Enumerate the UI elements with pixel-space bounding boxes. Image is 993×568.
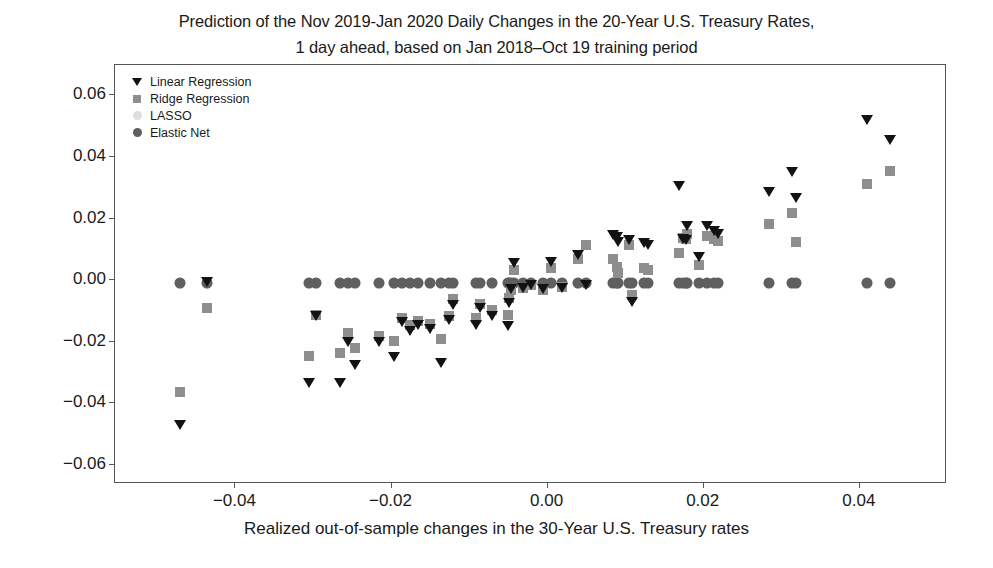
data-point <box>174 278 185 289</box>
data-point <box>335 348 345 358</box>
legend-marker-icon <box>129 111 145 120</box>
data-point <box>342 337 354 347</box>
data-point <box>580 280 592 290</box>
data-point <box>373 278 384 289</box>
page-title: Prediction of the Nov 2019-Jan 2020 Dail… <box>0 8 993 60</box>
data-point <box>447 300 459 310</box>
data-point <box>503 298 515 308</box>
data-point <box>388 352 400 362</box>
legend-label: Ridge Regression <box>150 92 249 106</box>
data-point <box>424 278 435 289</box>
data-point <box>443 315 455 325</box>
legend-label: Linear Regression <box>150 75 251 89</box>
x-tick-label: 0.00 <box>530 491 563 511</box>
legend-item[interactable]: LASSO <box>129 107 251 124</box>
data-point <box>786 167 798 177</box>
data-point <box>763 187 775 197</box>
data-point <box>525 280 537 290</box>
data-point <box>412 320 424 330</box>
data-point <box>350 278 361 289</box>
legend-label: LASSO <box>150 109 192 123</box>
data-point <box>334 378 346 388</box>
data-point <box>201 277 213 287</box>
data-point <box>791 278 802 289</box>
x-tick-mark <box>703 482 704 488</box>
x-tick-label: −0.02 <box>369 491 412 511</box>
data-point <box>623 235 635 245</box>
data-point <box>581 240 591 250</box>
data-point <box>791 237 801 247</box>
data-point <box>502 321 514 331</box>
y-tick-label: −0.02 <box>63 331 106 351</box>
y-tick-label: 0.04 <box>73 146 106 166</box>
data-point <box>486 311 498 321</box>
y-tick-label: 0.00 <box>73 269 106 289</box>
data-point <box>505 284 517 294</box>
data-point <box>674 248 684 258</box>
data-point <box>475 278 486 289</box>
data-point <box>572 250 584 260</box>
y-tick-label: 0.02 <box>73 208 106 228</box>
data-point <box>349 360 361 370</box>
data-point <box>790 193 802 203</box>
data-point <box>682 278 693 289</box>
x-tick-label: 0.04 <box>842 491 875 511</box>
legend-marker-icon <box>129 95 145 103</box>
legend-item[interactable]: Elastic Net <box>129 124 251 141</box>
chart-legend: Linear RegressionRidge RegressionLASSOEl… <box>125 70 258 145</box>
x-tick-mark <box>547 482 548 488</box>
data-point <box>436 334 446 344</box>
y-tick-label: 0.06 <box>73 84 106 104</box>
y-tick-label: −0.06 <box>63 454 106 474</box>
data-point <box>486 278 497 289</box>
data-point <box>627 278 638 289</box>
data-point <box>642 240 654 250</box>
data-point <box>861 115 873 125</box>
data-point <box>424 324 436 334</box>
data-point <box>389 336 399 346</box>
data-point <box>174 420 186 430</box>
data-point <box>764 278 775 289</box>
data-point <box>885 278 896 289</box>
data-point <box>373 337 385 347</box>
data-point <box>474 303 486 313</box>
legend-marker-icon <box>129 78 145 86</box>
legend-label: Elastic Net <box>150 126 210 140</box>
x-tick-label: 0.02 <box>686 491 719 511</box>
data-point <box>862 179 872 189</box>
plot-area: −0.06−0.04−0.020.000.020.040.06 −0.04−0.… <box>114 64 946 483</box>
data-point <box>311 278 322 289</box>
data-point <box>885 166 895 176</box>
data-point <box>712 229 724 239</box>
data-point <box>673 181 685 191</box>
data-point <box>693 252 705 262</box>
data-point <box>680 235 692 245</box>
data-point <box>303 378 315 388</box>
data-point <box>435 358 447 368</box>
legend-marker-icon <box>129 128 145 137</box>
data-point <box>643 278 654 289</box>
data-point <box>175 387 185 397</box>
x-tick-mark <box>234 482 235 488</box>
data-point <box>556 283 568 293</box>
x-tick-mark <box>391 482 392 488</box>
data-point <box>861 278 872 289</box>
legend-item[interactable]: Ridge Regression <box>129 90 251 107</box>
data-point <box>545 257 557 267</box>
data-point <box>412 278 423 289</box>
y-tick-label: −0.04 <box>63 392 106 412</box>
data-point <box>681 221 693 231</box>
data-point <box>304 351 314 361</box>
x-tick-label: −0.04 <box>213 491 256 511</box>
data-point <box>643 265 653 275</box>
data-point <box>537 284 549 294</box>
data-point <box>447 278 458 289</box>
data-point <box>713 278 724 289</box>
data-point <box>310 311 322 321</box>
legend-item[interactable]: Linear Regression <box>129 73 251 90</box>
data-point <box>613 268 623 278</box>
x-tick-mark <box>859 482 860 488</box>
x-axis-label: Realized out-of-sample changes in the 30… <box>0 519 993 539</box>
data-point <box>764 219 774 229</box>
chart-page: Prediction of the Nov 2019-Jan 2020 Dail… <box>0 0 993 568</box>
